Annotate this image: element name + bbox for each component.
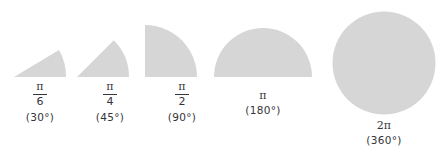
degrees-label: (90°) — [142, 112, 222, 123]
fraction-numerator: π — [103, 81, 116, 93]
fraction-denominator: 4 — [103, 96, 116, 108]
degrees-label: (30°) — [0, 112, 80, 123]
fraction-denominator: 2 — [175, 96, 188, 108]
sector-shape-pi-over-6 — [10, 44, 72, 82]
degrees-label: (45°) — [70, 112, 150, 123]
label-pi: π (180°) — [223, 90, 303, 116]
sector-shape-pi-over-4 — [72, 32, 140, 82]
degrees-label: (360°) — [344, 135, 424, 146]
sector-shape-pi-over-2 — [140, 21, 202, 82]
degrees-label: (180°) — [223, 105, 303, 116]
fraction-denominator: 6 — [33, 96, 46, 108]
label-pi-over-2: π 2 (90°) — [142, 81, 222, 122]
label-pi-over-6: π 6 (30°) — [0, 81, 80, 122]
fraction-pi-over-4: π 4 — [103, 81, 116, 107]
radian-sectors-figure: π 6 (30°) π 4 (45°) π 2 (90°) π (180°) 2… — [0, 0, 442, 160]
label-pi-over-4: π 4 (45°) — [70, 81, 150, 122]
fraction-pi-over-6: π 6 — [33, 81, 46, 107]
fraction-numerator: π — [33, 81, 46, 93]
sector-shape-pi — [210, 22, 316, 82]
fraction-numerator: π — [175, 81, 188, 93]
fraction-pi-over-2: π 2 — [175, 81, 188, 107]
sector-shape-two-pi — [328, 7, 440, 119]
label-two-pi: 2π (360°) — [344, 120, 424, 146]
radian-value: 2π — [344, 120, 424, 131]
radian-value: π — [223, 90, 303, 101]
